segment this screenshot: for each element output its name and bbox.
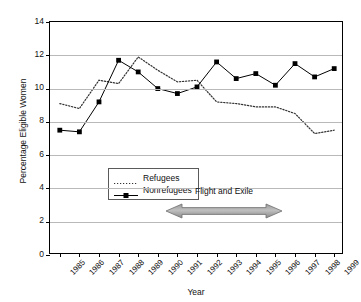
- x-tick-mark: [197, 253, 198, 257]
- y-tick-label: 12: [18, 50, 44, 59]
- data-point-marker: [116, 58, 121, 63]
- gridline: [50, 222, 342, 223]
- data-point-marker: [234, 76, 239, 81]
- x-tick-mark: [60, 253, 61, 257]
- x-tick-mark: [138, 253, 139, 257]
- flight-and-exile-arrow-icon: [164, 203, 284, 219]
- x-tick-mark: [275, 253, 276, 257]
- legend-key-dotted-icon: [113, 174, 139, 183]
- data-point-marker: [253, 71, 258, 76]
- y-tick-label: 6: [18, 150, 44, 159]
- y-tick-mark: [46, 55, 50, 56]
- x-tick-mark: [99, 253, 100, 257]
- plot-area: Refugees Nonrefugees: [49, 21, 343, 254]
- gridline: [50, 89, 342, 90]
- data-point-marker: [293, 61, 298, 66]
- data-point-marker: [273, 83, 278, 88]
- gridline: [50, 155, 342, 156]
- data-point-marker: [77, 129, 82, 134]
- data-point-marker: [332, 66, 337, 71]
- legend-label-refugees: Refugees: [143, 174, 179, 183]
- y-tick-mark: [46, 122, 50, 123]
- gridline: [50, 55, 342, 56]
- data-point-marker: [214, 60, 219, 65]
- y-tick-mark: [46, 155, 50, 156]
- data-point-marker: [312, 75, 317, 80]
- data-point-marker: [97, 99, 102, 104]
- y-tick-label: 2: [18, 216, 44, 225]
- y-tick-label: 14: [18, 17, 44, 26]
- data-point-marker: [136, 70, 141, 75]
- data-point-marker: [175, 91, 180, 96]
- x-tick-mark: [236, 253, 237, 257]
- y-tick-mark: [46, 255, 50, 256]
- x-tick-mark: [256, 253, 257, 257]
- data-point-marker: [57, 128, 62, 133]
- gridline: [50, 122, 342, 123]
- annotation-label: Flight and Exile: [169, 186, 279, 196]
- x-tick-mark: [295, 253, 296, 257]
- data-series-layer: [50, 22, 344, 255]
- y-tick-mark: [46, 22, 50, 23]
- y-tick-mark: [46, 222, 50, 223]
- y-tick-mark: [46, 89, 50, 90]
- x-tick-mark: [79, 253, 80, 257]
- y-tick-label: 8: [18, 116, 44, 125]
- legend-item-refugees: Refugees: [113, 172, 192, 184]
- x-tick-mark: [177, 253, 178, 257]
- y-tick-mark: [46, 188, 50, 189]
- x-tick-mark: [334, 253, 335, 257]
- legend-key-solid-square-icon: [113, 186, 139, 195]
- y-tick-label: 0: [18, 250, 44, 259]
- x-axis-title: Year: [49, 287, 343, 297]
- y-tick-label: 4: [18, 183, 44, 192]
- y-tick-label: 10: [18, 83, 44, 92]
- x-tick-mark: [158, 253, 159, 257]
